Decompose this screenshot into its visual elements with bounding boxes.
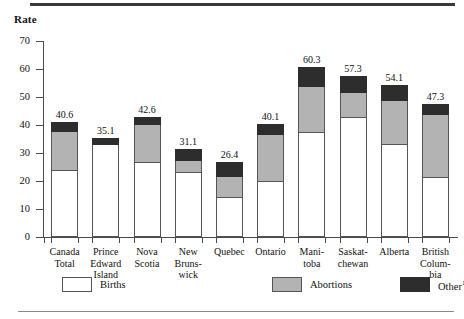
bar-segment-abortions: [51, 131, 78, 171]
bar-ontario: [257, 125, 284, 237]
bar-segment-other: [340, 76, 367, 93]
x-tick-mark: [44, 237, 45, 243]
x-tick-mark: [325, 237, 326, 243]
x-label-line: Bruns-: [164, 258, 213, 270]
x-tick-mark: [161, 237, 162, 243]
bar-segment-other: [134, 117, 161, 125]
y-tick-label: 60: [8, 64, 30, 75]
bar-value-label: 54.1: [374, 73, 415, 83]
bar-segment-abortions: [175, 160, 202, 172]
legend-swatch-births: [62, 277, 92, 292]
bar-segment-births: [340, 117, 367, 237]
bar-segment-abortions: [422, 114, 449, 178]
bar-segment-other: [422, 104, 449, 116]
chart-figure: Rate 706050403020100 CanadaTotalPrinceEd…: [0, 0, 464, 319]
bar-segment-other: [51, 122, 78, 132]
figure-bottom-rule: [18, 311, 454, 312]
y-tick-label: 0: [8, 232, 30, 243]
bar-british-columbia: [422, 105, 449, 237]
x-tick-mark: [449, 237, 450, 243]
bar-prince-edward-island: [92, 139, 119, 237]
x-tick-mark: [422, 237, 423, 243]
x-tick-mark: [367, 237, 368, 243]
bar-segment-other: [257, 124, 284, 135]
x-tick-mark: [243, 237, 244, 243]
x-tick-mark: [284, 237, 285, 243]
x-label-line: chewan: [328, 258, 377, 270]
y-axis-title: Rate: [14, 13, 37, 25]
x-tick-mark: [119, 237, 120, 243]
bar-alberta: [381, 86, 408, 237]
chart-legend: BirthsAbortionsOther1: [0, 276, 464, 300]
legend-swatch-abortions: [272, 277, 302, 292]
bar-segment-births: [216, 197, 243, 237]
legend-label-abortions: Abortions: [310, 279, 352, 290]
figure-top-rule: [30, 3, 455, 6]
bar-canada-total: [51, 123, 78, 237]
y-tick-mark: [36, 41, 43, 42]
legend-label-births: Births: [100, 279, 126, 290]
bar-segment-abortions: [381, 100, 408, 145]
bar-segment-other: [216, 162, 243, 177]
x-tick-mark: [408, 237, 409, 243]
bar-manitoba: [298, 68, 325, 237]
bar-segment-births: [134, 162, 161, 237]
x-tick-mark: [92, 237, 93, 243]
bar-segment-births: [381, 144, 408, 237]
y-tick-mark: [36, 209, 43, 210]
bar-value-label: 60.3: [291, 55, 332, 65]
bar-segment-other: [298, 67, 325, 87]
y-tick-label: 20: [8, 176, 30, 187]
bar-segment-births: [257, 181, 284, 237]
bar-segment-other: [92, 138, 119, 145]
x-tick-mark: [51, 237, 52, 243]
y-tick-label: 40: [8, 120, 30, 131]
bar-segment-abortions: [216, 176, 243, 198]
bar-segment-births: [298, 132, 325, 237]
bar-value-label: 42.6: [126, 105, 167, 115]
bar-segment-births: [422, 177, 449, 237]
x-tick-mark: [216, 237, 217, 243]
bar-saskatchewan: [340, 77, 367, 237]
bar-segment-abortions: [134, 124, 161, 163]
bar-segment-abortions: [340, 92, 367, 118]
y-tick-label: 50: [8, 92, 30, 103]
bar-segment-births: [175, 172, 202, 237]
bar-value-label: 35.1: [85, 126, 126, 136]
bar-new-brunswick: [175, 150, 202, 237]
y-tick-mark: [36, 153, 43, 154]
x-axis-line: [36, 237, 458, 238]
y-tick-label: 70: [8, 36, 30, 47]
x-tick-mark: [202, 237, 203, 243]
legend-label-other: Other1: [438, 279, 464, 292]
bar-quebec: [216, 163, 243, 237]
y-tick-mark: [36, 125, 43, 126]
bar-value-label: 40.6: [44, 110, 85, 120]
bar-segment-other: [381, 85, 408, 102]
y-tick-mark: [36, 237, 43, 238]
bar-segment-births: [92, 144, 119, 237]
x-tick-mark: [257, 237, 258, 243]
bar-segment-other: [175, 149, 202, 161]
x-label-line: Colum-: [411, 258, 460, 270]
y-tick-mark: [36, 181, 43, 182]
bar-segment-abortions: [257, 134, 284, 183]
bar-value-label: 26.4: [209, 150, 250, 160]
x-tick-mark: [78, 237, 79, 243]
x-tick-mark: [340, 237, 341, 243]
y-tick-mark: [36, 97, 43, 98]
y-tick-label: 10: [8, 204, 30, 215]
x-tick-mark: [381, 237, 382, 243]
bar-nova-scotia: [134, 118, 161, 237]
bar-segment-births: [51, 170, 78, 237]
legend-swatch-other: [400, 277, 430, 292]
x-tick-mark: [298, 237, 299, 243]
plot-area: [44, 41, 456, 237]
y-tick-label: 30: [8, 148, 30, 159]
x-tick-mark: [175, 237, 176, 243]
y-tick-mark: [36, 69, 43, 70]
bar-value-label: 47.3: [415, 92, 456, 102]
x-tick-mark: [134, 237, 135, 243]
bar-value-label: 57.3: [332, 64, 373, 74]
bar-segment-abortions: [298, 86, 325, 133]
